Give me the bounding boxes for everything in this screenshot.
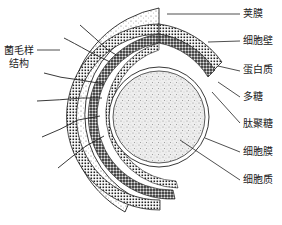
label-pili-like-structure: 菌毛样 结构 xyxy=(4,44,34,70)
label-polysaccharide: 多糖 xyxy=(243,91,263,103)
label-cell-membrane: 细胞膜 xyxy=(243,146,273,158)
label-pili-line1: 菌毛样 xyxy=(4,44,34,57)
label-capsule: 荚膜 xyxy=(243,8,263,20)
label-peptidoglycan: 肽聚糖 xyxy=(243,118,273,130)
label-cell-wall: 细胞壁 xyxy=(243,35,273,47)
cytoplasm xyxy=(113,71,205,163)
bacterial-cell-diagram xyxy=(0,0,282,225)
label-protein: 蛋白质 xyxy=(243,64,273,76)
label-cytoplasm: 细胞质 xyxy=(243,174,273,186)
label-pili-line2: 结构 xyxy=(4,57,34,70)
